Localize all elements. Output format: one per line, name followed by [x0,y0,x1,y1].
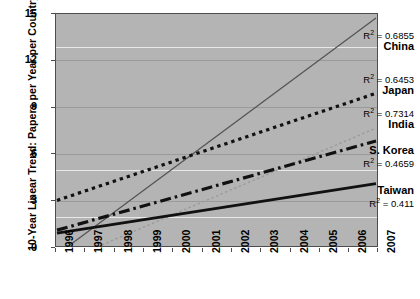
y-tick-label-9: 9 [13,101,37,112]
y-tick-label-3: 3 [13,195,37,206]
annotation-taiwan-label: Taiwan [369,185,414,197]
x-tick-mark [348,248,349,252]
x-tick-label-1998: 1998 [123,211,134,253]
x-tick-label-2001: 2001 [211,211,222,253]
annotation-taiwan: Taiwan R2 = 0.411 [369,185,414,209]
x-tick-mark [84,248,85,252]
y-tick-label-12: 12 [13,54,37,65]
annotation-india-label: India [363,119,414,131]
x-tick-label-2004: 2004 [299,211,310,253]
x-tick-label-1999: 1999 [152,211,163,253]
x-tick-mark [290,248,291,252]
x-tick-label-2006: 2006 [357,211,368,253]
x-tick-label-1997: 1997 [93,211,104,253]
annotation-s-korea: S. Korea R2 = 0.4659 [363,145,414,169]
y-tick-label-0: 0 [13,242,37,253]
x-tick-mark [114,248,115,252]
annotation-japan: R2 = 0.6453 Japan [363,73,414,97]
x-tick-mark [319,248,320,252]
annotation-india: R2 = 0.7314 India [363,107,414,131]
x-tick-label-2003: 2003 [269,211,280,253]
annotation-china: R2 = 0.6855 China [363,29,414,53]
y-tick-label-6: 6 [13,148,37,159]
annotation-china-label: China [363,41,414,53]
x-tick-mark [172,248,173,252]
x-tick-mark [377,248,378,252]
annotation-s-korea-label: S. Korea [363,145,414,157]
chart-container: 10-Year Linear Trend: Papers per Year pe… [0,0,420,299]
x-tick-label-2002: 2002 [240,211,251,253]
x-tick-mark [143,248,144,252]
annotation-taiwan-r2: R2 = 0.411 [369,197,414,209]
annotation-s-korea-r2: R2 = 0.4659 [363,157,414,169]
x-tick-mark [231,248,232,252]
x-tick-label-2005: 2005 [328,211,339,253]
x-tick-mark [55,248,56,252]
annotation-japan-label: Japan [363,85,414,97]
x-tick-mark [202,248,203,252]
y-tick-label-15: 15 [13,8,37,19]
x-tick-label-1996: 1996 [64,211,75,253]
x-tick-label-2000: 2000 [181,211,192,253]
y-axis-title: 10-Year Linear Trend: Papers per Year pe… [26,1,38,251]
x-tick-label-2007: 2007 [386,211,397,253]
x-tick-mark [260,248,261,252]
